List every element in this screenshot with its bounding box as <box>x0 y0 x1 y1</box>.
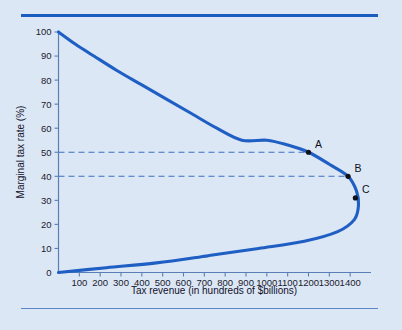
point-label-c: C <box>362 183 370 195</box>
y-tick-label: 60 <box>41 123 52 134</box>
data-point-marker-b <box>345 174 350 179</box>
y-tick-label: 70 <box>41 99 52 110</box>
y-tick-label: 50 <box>41 147 52 158</box>
y-tick-label: 30 <box>41 195 52 206</box>
point-label-a: A <box>315 138 322 150</box>
x-tick-label: 1400 <box>340 277 361 288</box>
y-tick-label: 100 <box>36 26 52 37</box>
x-tick-label: 1200 <box>298 277 319 288</box>
y-tick-label: 90 <box>41 50 52 61</box>
x-tick-label: 1300 <box>319 277 340 288</box>
y-tick-label: 0 <box>46 267 51 278</box>
y-axis-ticks-group: 0102030405060708090100 <box>36 26 59 278</box>
x-tick-label: 200 <box>92 277 108 288</box>
data-point-marker-a <box>306 150 311 155</box>
reference-lines-group <box>59 152 349 176</box>
x-axis-title: Tax revenue (in hundreds of $billions) <box>131 285 297 296</box>
y-tick-label: 40 <box>41 171 52 182</box>
y-tick-label: 80 <box>41 75 52 86</box>
point-label-b: B <box>355 162 362 174</box>
data-point-marker-c <box>353 195 358 200</box>
x-tick-label: 300 <box>113 277 129 288</box>
laffer-curve-figure: 1002003004005006007008009001000110012001… <box>0 0 402 330</box>
y-tick-label: 20 <box>41 219 52 230</box>
x-tick-label: 100 <box>71 277 87 288</box>
y-tick-label: 10 <box>41 243 52 254</box>
y-axis-title: Marginal tax rate (%) <box>15 106 26 199</box>
chart-canvas: 1002003004005006007008009001000110012001… <box>0 0 402 330</box>
